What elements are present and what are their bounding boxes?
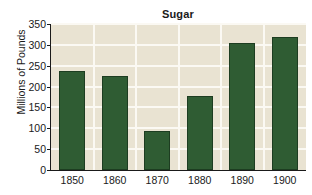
bar-1890: [229, 43, 255, 170]
gridline-vertical: [135, 24, 137, 170]
gridline-vertical: [178, 24, 180, 170]
x-tick-label-1850: 1850: [51, 175, 94, 186]
y-tick-label: 0: [2, 165, 46, 175]
y-tick-label: 200: [2, 82, 46, 92]
bar-1880: [187, 96, 213, 170]
y-tick-label: 100: [2, 123, 46, 133]
x-tick-label-1880: 1880: [179, 175, 222, 186]
gridline-vertical: [93, 24, 95, 170]
x-tick-label-1890: 1890: [221, 175, 264, 186]
bar-1900: [272, 37, 298, 170]
y-tick-label: 250: [2, 61, 46, 71]
chart-title: Sugar: [50, 8, 306, 20]
y-tick-label: 350: [2, 19, 46, 29]
y-tick-label: 300: [2, 40, 46, 50]
gridline-vertical: [263, 24, 265, 170]
bar-1860: [102, 76, 128, 170]
x-tick-label-1870: 1870: [136, 175, 179, 186]
y-tick-label: 50: [2, 144, 46, 154]
x-tick-label-1900: 1900: [264, 175, 307, 186]
x-axis-line: [50, 170, 306, 171]
bar-1850: [59, 71, 85, 170]
bar-chart-figure: Sugar Millions of Pounds 050100150200250…: [0, 0, 312, 195]
bar-1870: [144, 131, 170, 170]
plot-area: [51, 24, 306, 170]
y-tick-label: 150: [2, 102, 46, 112]
y-axis-tick-labels: 050100150200250300350: [0, 0, 46, 195]
y-axis-line: [50, 24, 51, 171]
gridline-vertical: [220, 24, 222, 170]
x-tick-label-1860: 1860: [94, 175, 137, 186]
